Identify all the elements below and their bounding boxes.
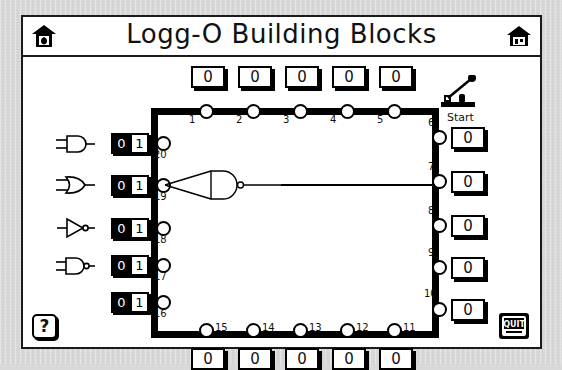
pin-label-4: 4 (330, 115, 336, 125)
value-box-pin-2[interactable]: 0 (238, 66, 272, 88)
switch-off-half[interactable]: 0 (113, 135, 130, 152)
help-button[interactable]: ? (32, 314, 57, 339)
pin-10[interactable] (432, 302, 447, 317)
pin-13[interactable] (293, 323, 308, 338)
value-box-pin-10[interactable]: 0 (451, 299, 485, 321)
pin-11[interactable] (387, 323, 402, 338)
and-gate-icon[interactable] (51, 129, 97, 159)
page-title: Logg-O Building Blocks (23, 19, 540, 49)
pin-14[interactable] (246, 323, 261, 338)
value-box-pin-6[interactable]: 0 (451, 127, 485, 149)
pin-label-5: 5 (377, 115, 383, 125)
pin-label-1: 1 (189, 115, 195, 125)
pin-label-7: 7 (428, 162, 434, 172)
value-box-pin-3[interactable]: 0 (285, 66, 319, 88)
switch-off-half[interactable]: 0 (113, 177, 130, 194)
placed-nand-gate[interactable] (163, 162, 283, 212)
pin-6[interactable] (432, 130, 447, 145)
switch-on-half[interactable]: 1 (130, 135, 147, 152)
input-switch-pin-18[interactable]: 0 1 (111, 218, 149, 239)
output-wire-to-pin-7[interactable] (281, 184, 435, 186)
not-gate-icon[interactable] (51, 213, 97, 243)
switch-off-half[interactable]: 0 (113, 257, 130, 274)
pin-12[interactable] (340, 323, 355, 338)
pin-label-10: 10 (424, 289, 437, 299)
quit-button[interactable]: QUIT (498, 312, 530, 340)
pin-8[interactable] (432, 218, 447, 233)
input-switch-pin-20[interactable]: 0 1 (111, 133, 149, 154)
value-box-pin-12[interactable]: 0 (332, 348, 366, 370)
or-gate-icon[interactable] (51, 170, 97, 200)
pin-5[interactable] (387, 104, 402, 119)
switch-on-half[interactable]: 1 (130, 177, 147, 194)
value-box-pin-9[interactable]: 0 (451, 257, 485, 279)
pin-label-3: 3 (283, 115, 289, 125)
pin-label-2: 2 (236, 115, 242, 125)
application-window: Logg-O Building Blocks 0 1 0 2 0 3 0 4 0… (21, 15, 542, 349)
pin-label-12: 12 (356, 323, 369, 333)
nand-gate-icon[interactable] (51, 251, 97, 281)
input-switch-pin-17[interactable]: 0 1 (111, 255, 149, 276)
start-lever-icon[interactable] (440, 75, 478, 109)
switch-on-half[interactable]: 1 (130, 220, 147, 237)
value-box-pin-7[interactable]: 0 (451, 171, 485, 193)
pin-label-9: 9 (428, 248, 434, 258)
value-box-pin-4[interactable]: 0 (332, 66, 366, 88)
pin-label-6: 6 (428, 118, 434, 128)
value-box-pin-1[interactable]: 0 (191, 66, 225, 88)
pin-label-8: 8 (428, 206, 434, 216)
workspace: 0 1 0 2 0 3 0 4 0 5 Start 6 (23, 57, 540, 347)
pin-3[interactable] (293, 104, 308, 119)
pin-label-13: 13 (309, 323, 322, 333)
circuit-boundary (151, 108, 439, 338)
pin-7[interactable] (432, 174, 447, 189)
pin-label-14: 14 (262, 323, 275, 333)
switch-on-half[interactable]: 1 (130, 257, 147, 274)
svg-text:QUIT: QUIT (503, 320, 525, 329)
pin-2[interactable] (246, 104, 261, 119)
value-box-pin-5[interactable]: 0 (379, 66, 413, 88)
title-bar: Logg-O Building Blocks (23, 17, 540, 57)
home-icon[interactable] (506, 24, 532, 48)
switch-off-half[interactable]: 0 (113, 220, 130, 237)
value-box-pin-15[interactable]: 0 (191, 348, 225, 370)
value-box-pin-8[interactable]: 0 (451, 215, 485, 237)
pin-4[interactable] (340, 104, 355, 119)
value-box-pin-13[interactable]: 0 (285, 348, 319, 370)
pin-label-16: 16 (154, 309, 167, 319)
switch-on-half[interactable]: 1 (130, 294, 147, 311)
input-switch-pin-16[interactable]: 0 1 (111, 292, 149, 313)
pin-label-11: 11 (403, 323, 416, 333)
pin-label-18: 18 (154, 235, 167, 245)
pin-label-15: 15 (215, 323, 228, 333)
pin-9[interactable] (432, 260, 447, 275)
input-switch-pin-19[interactable]: 0 1 (111, 175, 149, 196)
switch-off-half[interactable]: 0 (113, 294, 130, 311)
pin-label-20: 20 (154, 150, 167, 160)
value-box-pin-14[interactable]: 0 (238, 348, 272, 370)
value-box-pin-11[interactable]: 0 (379, 348, 413, 370)
pin-15[interactable] (199, 323, 214, 338)
pin-1[interactable] (199, 104, 214, 119)
pin-label-17: 17 (154, 272, 167, 282)
start-label: Start (447, 111, 474, 124)
